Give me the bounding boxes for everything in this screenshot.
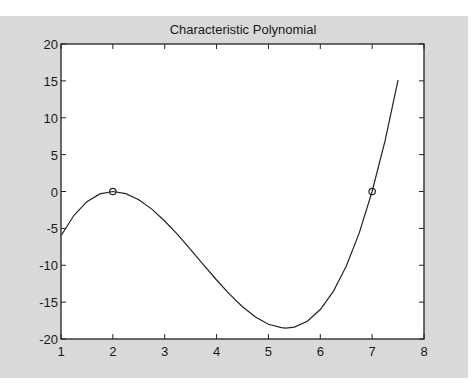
x-tick-label: 4 <box>213 344 220 359</box>
y-tick-label: -10 <box>39 258 58 273</box>
x-tick-labels: 12345678 <box>57 344 427 359</box>
chart-canvas: Characteristic Polynomial 12345678 -20-1… <box>0 16 468 378</box>
chart-title: Characteristic Polynomial <box>170 22 317 37</box>
x-tick-label: 2 <box>109 344 116 359</box>
x-tick-label: 3 <box>161 344 168 359</box>
x-tick-label: 7 <box>369 344 376 359</box>
y-tick-label: 0 <box>51 185 58 200</box>
x-tick-label: 8 <box>420 344 427 359</box>
y-tick-label: -20 <box>39 332 58 347</box>
y-tick-labels: -20-15-10-505101520 <box>39 37 58 347</box>
y-tick-label: -5 <box>46 221 58 236</box>
figure-window: Characteristic Polynomial 12345678 -20-1… <box>0 16 468 378</box>
x-tick-label: 5 <box>265 344 272 359</box>
y-tick-label: 10 <box>44 111 58 126</box>
x-tick-label: 1 <box>57 344 64 359</box>
y-tick-label: 15 <box>44 74 58 89</box>
y-tick-label: -15 <box>39 295 58 310</box>
y-tick-label: 20 <box>44 37 58 52</box>
x-tick-label: 6 <box>317 344 324 359</box>
y-tick-label: 5 <box>51 148 58 163</box>
